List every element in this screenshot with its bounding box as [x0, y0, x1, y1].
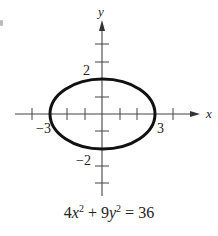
plus-sign: + — [84, 204, 101, 221]
tick-label-x-neg3: −3 — [36, 121, 51, 136]
coef-y: 9 — [101, 204, 109, 221]
x-axis — [15, 111, 200, 117]
y-axis — [99, 20, 105, 196]
tick-label-y-neg2: −2 — [76, 153, 91, 168]
equals-rhs: = 36 — [121, 204, 154, 221]
y-axis-arrow-icon — [99, 20, 105, 31]
tick-label-x-3: 3 — [157, 121, 164, 136]
ellipse-graph: y x −3 3 2 −2 — [0, 0, 218, 236]
var-x: x — [72, 204, 79, 221]
y-axis-label: y — [96, 4, 104, 19]
x-axis-label: x — [205, 106, 212, 121]
x-axis-arrow-icon — [190, 111, 200, 117]
tick-label-y-2: 2 — [83, 63, 90, 78]
coef-x: 4 — [64, 204, 72, 221]
equation-caption: 4x2 + 9y2 = 36 — [0, 203, 218, 222]
